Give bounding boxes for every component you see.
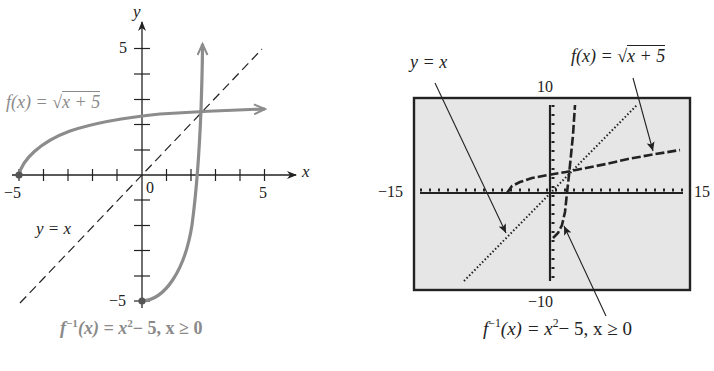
left-endpoint-f <box>15 171 22 178</box>
left-tick-x-5: 5 <box>259 184 267 202</box>
left-graph <box>12 22 296 308</box>
right-label-f: f(x) = √x + 5 <box>571 46 665 67</box>
left-label-f-inverse: f−1(x) = x2− 5, x ≥ 0 <box>60 318 202 339</box>
right-label-f-inverse: f−1(x) = x2− 5, x ≥ 0 <box>483 318 632 340</box>
left-y-axis-label: y <box>133 2 141 22</box>
left-label-f-prefix: f(x) = <box>6 92 52 112</box>
right-label-y-equals-x: y = x <box>410 52 447 73</box>
left-label-y-equals-x: y = x <box>36 219 71 239</box>
left-tick-x-neg5: −5 <box>4 184 21 202</box>
right-window-right: 15 <box>694 183 710 201</box>
right-window-bottom: −10 <box>528 293 553 311</box>
right-label-f-radicand: x + 5 <box>627 45 665 66</box>
right-window-top: 10 <box>537 78 553 96</box>
left-finv-mid: (x) = x <box>78 318 127 338</box>
right-graph <box>414 78 690 316</box>
left-label-f-radicand: x + 5 <box>62 91 100 112</box>
left-finv-end: − 5, x ≥ 0 <box>133 318 203 338</box>
left-endpoint-f-inverse <box>138 297 145 304</box>
left-tick-x-0: 0 <box>146 179 154 197</box>
right-label-f-prefix: f(x) = <box>571 46 617 66</box>
right-finv-end: − 5, x ≥ 0 <box>559 318 632 339</box>
right-window-left: −15 <box>378 183 403 201</box>
left-tick-y-5: 5 <box>119 39 127 57</box>
right-finv-sup: −1 <box>488 317 501 330</box>
right-finv-mid: (x) = x <box>501 318 553 339</box>
left-x-axis-label: x <box>302 162 310 182</box>
left-line-y-equals-x <box>20 49 262 303</box>
left-label-f: f(x) = √x + 5 <box>6 92 100 113</box>
left-finv-sup: −1 <box>66 317 78 329</box>
left-curve-f-inverse <box>142 44 203 301</box>
left-tick-y-neg5: −5 <box>109 292 126 310</box>
